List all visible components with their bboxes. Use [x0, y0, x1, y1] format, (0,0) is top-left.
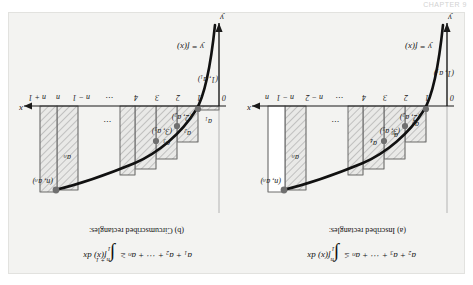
panel-a-tick-4: 4 [362, 93, 366, 102]
panel-b-formula-relation: ≥ [120, 251, 125, 261]
panel-b-formula: a₁ + a₂ + ⋯ + aₙ ≥ ∫n + 11 f(x) dx [83, 248, 192, 261]
panel-b-tick-ellipsis: ⋯ [106, 93, 114, 102]
panel-b-integral-upper: n + 1 [96, 257, 110, 262]
panel-a-rect-label-an: aₙ [292, 153, 299, 161]
panel-a-tick-nminus1: n − 1 [277, 93, 294, 102]
panel-a-tick-n: n [265, 93, 269, 102]
panel-b-y-axis-label: y [220, 13, 224, 22]
panel-a-caption: (a) Inscribed rectangles: [329, 226, 406, 235]
panel-b-point-label-2: (2, a₂) [172, 113, 192, 121]
panel-a-point-label-n: (n, aₙ) [261, 177, 281, 185]
figure-plate: 0 1 2 3 4 ⋯ n − 2 n − 1 n x y y = f(x) a… [8, 12, 465, 274]
panel-b-integral-sign: ∫n + 11 [110, 248, 115, 261]
panel-a-tick-3: 3 [383, 93, 387, 102]
panel-b-tick-3: 3 [155, 93, 159, 102]
panel-b-integral-lower: 1 [108, 247, 111, 252]
panel-b-point-label-3: (3, a₃) [152, 127, 172, 135]
panel-b-rect-label-a3: a₃ [163, 139, 170, 147]
running-head: CHAPTER 9 [423, 1, 467, 8]
panel-b-tick-4: 4 [134, 93, 138, 102]
panel-b-x-axis-label: x [19, 104, 23, 113]
panel-a-tick-ellipsis: ⋯ [336, 93, 344, 102]
panel-a-tick-2: 2 [404, 93, 408, 102]
panel-b-tick-n: n [56, 93, 60, 102]
panel-a-point-label-1: (1, a₁) [434, 69, 454, 77]
panel-b-tick-1: 1 [197, 93, 201, 102]
panel-inscribed: 0 1 2 3 4 ⋯ n − 2 n − 1 n x y y = f(x) a… [236, 11, 464, 273]
panel-b-tick-nplus1: n + 1 [29, 93, 46, 102]
panel-b-ellipsis: ⋯ [104, 117, 112, 125]
panel-a-integrand: f(x) dx [307, 251, 330, 261]
panel-a-point-label-3: (3, a₃) [380, 127, 400, 135]
panel-b-curve-label: y = f(x) [177, 42, 204, 51]
panel-a-rect-label-a4: a₄ [370, 139, 377, 147]
panel-b-formula-lhs: a₁ + a₂ + ⋯ + aₙ [128, 251, 192, 261]
panel-a-x-axis-label: x [247, 104, 251, 113]
circumscribed-rectangles [40, 106, 219, 192]
panel-a-point-label-2: (2, a₂) [400, 113, 420, 121]
panel-a-formula-relation: ≤ [344, 251, 349, 261]
figure-plate-wrapper: 0 1 2 3 4 ⋯ n − 2 n − 1 n x y y = f(x) a… [8, 12, 465, 274]
panel-a-y-axis-label: y [448, 13, 452, 22]
panel-b-tick-0: 0 [222, 93, 226, 102]
panel-b-caption: (b) Circumscribed rectangles: [89, 226, 184, 235]
panel-a-integral-upper: n [331, 257, 334, 262]
panel-a-curve-label: y = f(x) [405, 42, 432, 51]
panel-b-tick-nminus1: n − 1 [73, 93, 90, 102]
panel-a-formula-lhs: a₂ + a₃ + ⋯ + aₙ [352, 251, 416, 261]
panel-a-tick-1: 1 [425, 93, 429, 102]
panel-circumscribed: 0 1 2 3 4 ⋯ n − 1 n n + 1 x y y = f(x) a… [8, 11, 236, 273]
panel-b-point-label-n: (n, aₙ) [33, 177, 53, 185]
panel-a-tick-0: 0 [450, 93, 454, 102]
panel-b-rect-label-a1: a₁ [205, 117, 212, 125]
panel-b-rect-label-a2: a₂ [184, 129, 191, 137]
panel-b-point-label-1: (1, a₁) [198, 75, 218, 83]
panel-a-integral-sign: ∫n1 [334, 248, 339, 261]
panel-a-ellipsis: ⋯ [332, 117, 340, 125]
panel-a-formula: a₂ + a₃ + ⋯ + aₙ ≤ ∫n1 f(x) dx [307, 248, 416, 261]
panel-b-rect-label-an: aₙ [64, 153, 71, 161]
panel-a-tick-nminus2: n − 2 [306, 93, 323, 102]
panel-b-tick-2: 2 [176, 93, 180, 102]
panel-a-integral-lower: 1 [332, 247, 335, 252]
figure-page: CHAPTER 9 [0, 0, 473, 285]
